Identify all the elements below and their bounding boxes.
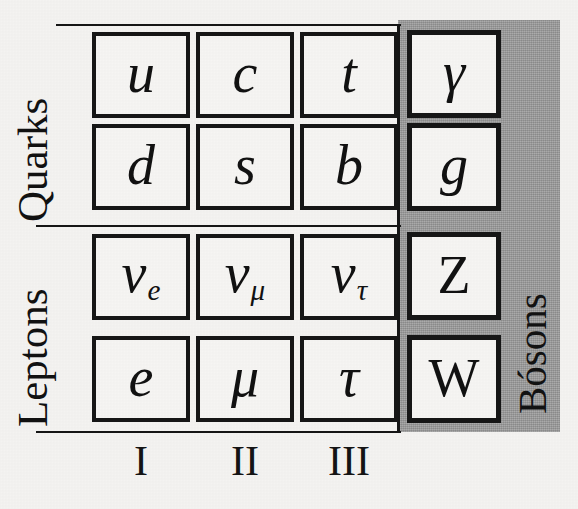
boson-symbol: W (429, 351, 480, 405)
particle-symbol: t (341, 45, 357, 101)
particle-cell: b (300, 124, 398, 210)
boson-symbol: g (440, 137, 468, 193)
particle-symbol: c (233, 45, 258, 101)
particle-cell: e (92, 336, 190, 422)
particle-symbol: u (127, 45, 155, 101)
boson-symbol: γ (443, 44, 465, 100)
boson-symbol: Z (438, 248, 471, 302)
generation-label: III (300, 440, 398, 482)
particle-subscript: μ (251, 274, 266, 306)
particle-symbol: b (335, 137, 363, 193)
boson-cell: Z (407, 232, 501, 320)
particle-symbol: τ (339, 349, 359, 405)
particle-subscript: τ (357, 274, 367, 306)
column-group-label-bosons: Bósons (508, 293, 556, 414)
particle-cell: t (300, 32, 398, 118)
rule-quark-lepton-divider (36, 225, 401, 227)
row-group-label-leptons: Leptons (8, 288, 57, 427)
boson-cell: W (407, 335, 501, 423)
particle-symbol: νμ (225, 245, 265, 305)
particle-subscript: e (147, 274, 160, 306)
boson-cell: γ (407, 30, 501, 118)
rule-top (56, 24, 401, 26)
particle-symbol: νe (122, 245, 161, 305)
particle-cell: d (92, 124, 190, 210)
boson-cell: g (407, 123, 501, 211)
particle-symbol: s (234, 137, 256, 193)
generation-label: I (92, 440, 190, 482)
particle-symbol: ντ (331, 245, 367, 305)
particle-cell: τ (300, 336, 398, 422)
row-group-label-quarks: Quarks (8, 98, 57, 222)
particle-cell: s (196, 124, 294, 210)
particle-cell: μ (196, 336, 294, 422)
particle-cell: u (92, 32, 190, 118)
particle-cell: νe (92, 234, 190, 320)
particle-table-figure: uctdsbνeνμντeμτ γgZW Quarks Leptons Bóso… (0, 0, 578, 509)
particle-cell: ντ (300, 234, 398, 320)
particle-symbol: e (129, 349, 154, 405)
particle-cell: c (196, 32, 294, 118)
rule-bottom (36, 431, 401, 433)
particle-symbol: μ (231, 349, 259, 405)
generation-label: II (196, 440, 294, 482)
particle-symbol: d (127, 137, 155, 193)
particle-cell: νμ (196, 234, 294, 320)
